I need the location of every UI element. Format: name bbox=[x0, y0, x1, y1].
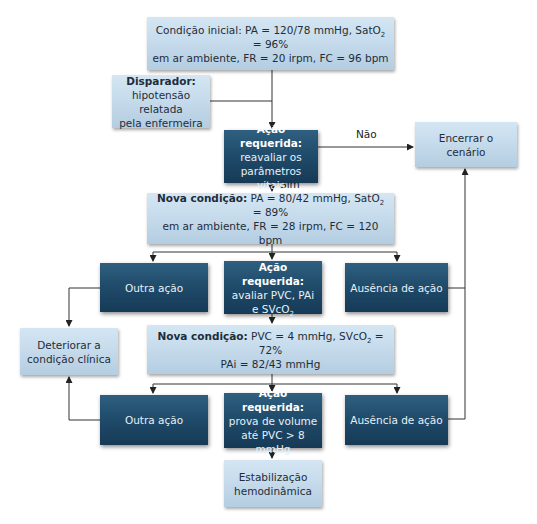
node-initial-condition: Condição inicial: PA = 120/78 mmHg, SatO… bbox=[147, 17, 394, 70]
node-other-action-2: Outra ação bbox=[100, 395, 208, 445]
node-new-condition-1: Nova condição: PA = 80/42 mmHg, SatO2 = … bbox=[147, 193, 394, 244]
node-action-volume-challenge: Ação requerida: prova de volume até PVC … bbox=[224, 393, 322, 448]
node-deteriorate: Deteriorar a condição clínica bbox=[20, 328, 118, 375]
node-trigger: Disparador: hipotensão relatada pela enf… bbox=[112, 75, 210, 128]
node-action-evaluate-pvc: Ação requerida: avaliar PVC, PAi e SVcO2 bbox=[224, 261, 322, 314]
node-no-action-2: Ausência de ação bbox=[345, 395, 448, 445]
edge-label-no: Não bbox=[356, 128, 377, 140]
node-no-action-1: Ausência de ação bbox=[345, 263, 448, 312]
node-end-scenario: Encerrar o cenário bbox=[415, 122, 517, 167]
node-hemodynamic-stabilization: Estabilização hemodinâmica bbox=[224, 460, 322, 507]
node-action-reassess-vitals: Ação requerida: reavaliar os parâmetros … bbox=[224, 130, 318, 183]
node-new-condition-2: Nova condição: PVC = 4 mmHg, SVcO2 = 72%… bbox=[147, 325, 394, 374]
node-other-action-1: Outra ação bbox=[100, 263, 208, 312]
